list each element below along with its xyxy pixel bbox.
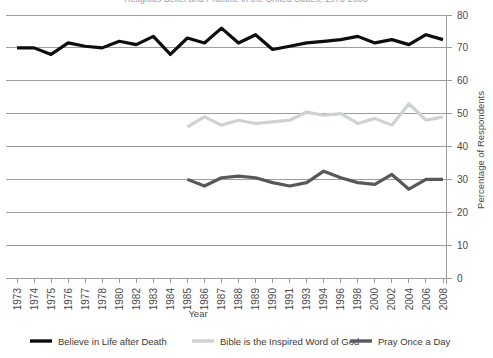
chart-legend: Believe in Life after DeathBible is the …: [30, 336, 451, 347]
x-tick-label: 1976: [63, 288, 74, 311]
x-tick-label: 2002: [386, 288, 397, 311]
x-tick-label: 1983: [148, 288, 159, 311]
y-tick-label: 60: [457, 75, 469, 86]
x-tick-label: 1990: [267, 288, 278, 311]
chart-title: Religious Belief and Practice in the Uni…: [124, 0, 368, 4]
y-tick-label: 20: [457, 207, 469, 218]
x-tick-label: 1977: [80, 288, 91, 311]
y-tick-label: 70: [457, 42, 469, 53]
x-tick-label: 1974: [29, 288, 40, 311]
x-tick-label: 1978: [97, 288, 108, 311]
x-tick-label: 2008: [438, 288, 449, 311]
x-tick-label: 1988: [233, 288, 244, 311]
x-tick-label: 1996: [335, 288, 346, 311]
x-tick-label: 1973: [12, 288, 23, 311]
y-tick-label: 30: [457, 174, 469, 185]
x-tick-label: 2006: [421, 288, 432, 311]
y-axis: 01020304050607080: [446, 10, 469, 284]
y-tick-label: 0: [457, 273, 463, 284]
x-tick-label: 2000: [369, 288, 380, 311]
x-tick-label: 1994: [318, 288, 329, 311]
x-tick-label: 1975: [46, 288, 57, 311]
series-line-2: [187, 171, 443, 189]
y-axis-title: Percentage of Respondents: [475, 91, 486, 209]
x-tick-label: 1998: [352, 288, 363, 311]
axis-titles: YearPercentage of Respondents: [188, 91, 486, 319]
legend-label-0: Believe in Life after Death: [58, 336, 167, 347]
x-tick-label: 1989: [250, 288, 261, 311]
line-chart: 01020304050607080 1973197419751976197719…: [0, 0, 493, 358]
x-axis: 1973197419751976197719781980198219831984…: [6, 278, 449, 310]
legend-label-1: Bible is the Inspired Word of God: [220, 336, 359, 347]
x-axis-title: Year: [188, 308, 207, 319]
series-line-0: [17, 28, 443, 54]
x-tick-label: 1987: [216, 288, 227, 311]
x-tick-label: 1982: [131, 288, 142, 311]
gridlines: [6, 15, 446, 245]
y-tick-label: 80: [457, 10, 469, 21]
chart-container: 01020304050607080 1973197419751976197719…: [0, 0, 493, 358]
x-tick-label: 1986: [199, 288, 210, 311]
series-line-1: [187, 104, 443, 127]
x-tick-label: 2004: [404, 288, 415, 311]
legend-label-2: Pray Once a Day: [378, 336, 451, 347]
x-tick-label: 1984: [165, 288, 176, 311]
y-tick-label: 40: [457, 141, 469, 152]
y-tick-label: 50: [457, 108, 469, 119]
x-tick-label: 1980: [114, 288, 125, 311]
x-tick-label: 1985: [182, 288, 193, 311]
chart-title-text: Religious Belief and Practice in the Uni…: [124, 0, 368, 4]
x-tick-label: 1991: [284, 288, 295, 311]
data-series: [17, 28, 443, 189]
y-tick-label: 10: [457, 240, 469, 251]
x-tick-label: 1993: [301, 288, 312, 311]
